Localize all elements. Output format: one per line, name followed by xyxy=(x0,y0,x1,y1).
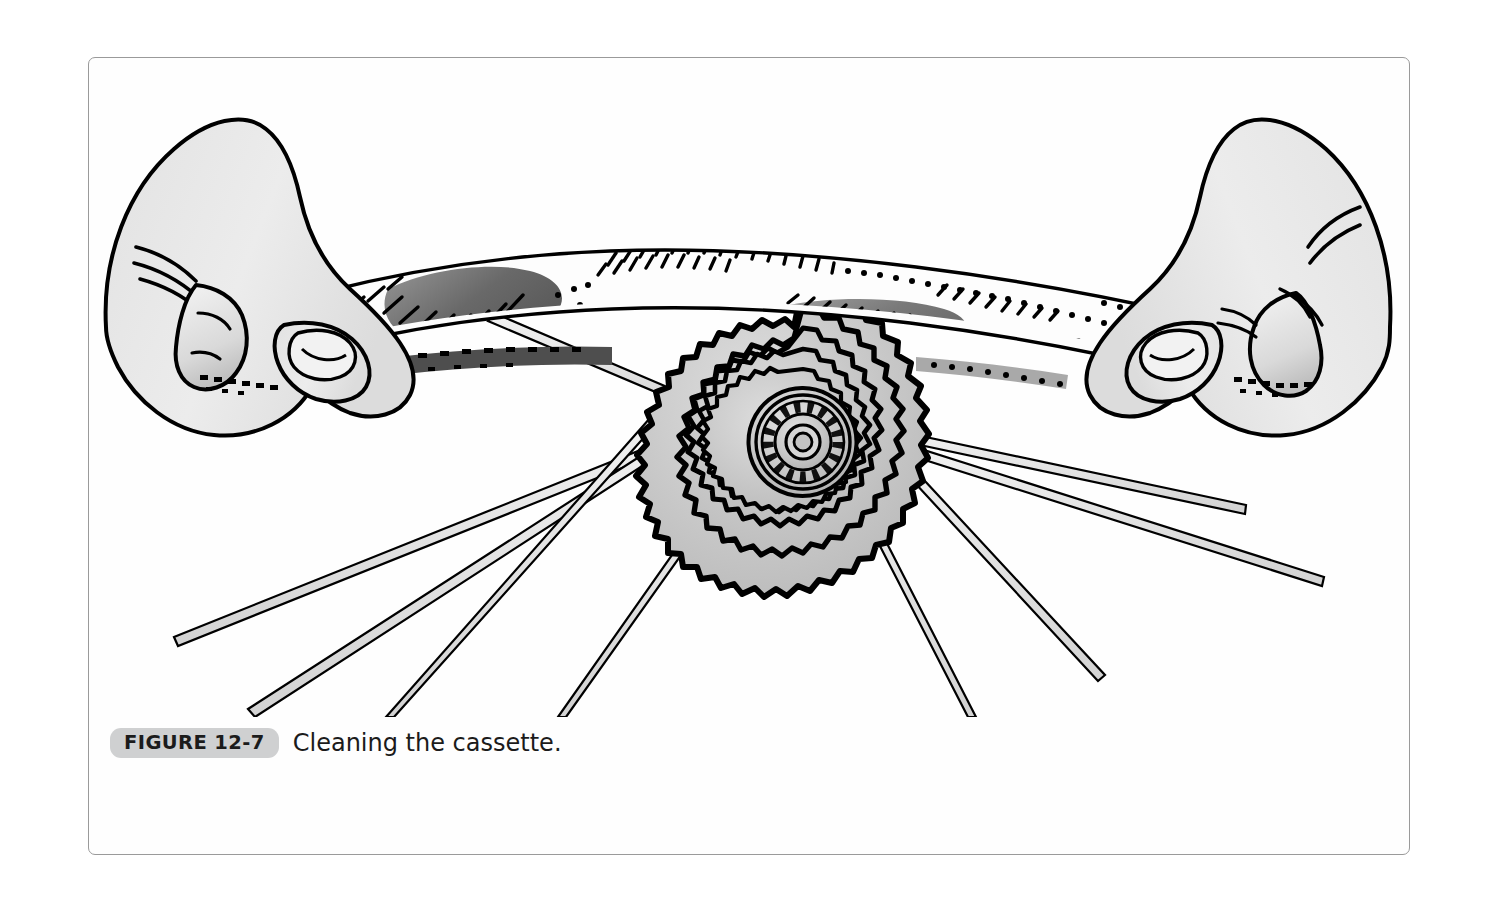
axle-center xyxy=(794,433,812,451)
spoke xyxy=(248,419,704,717)
right-hand xyxy=(1086,119,1390,435)
grime-band-right xyxy=(916,357,1068,389)
figure-illustration xyxy=(88,57,1410,717)
figure-caption: FIGURE 12-7 Cleaning the cassette. xyxy=(110,728,562,758)
page-canvas: FIGURE 12-7 Cleaning the cassette. xyxy=(0,0,1486,903)
spoke xyxy=(906,445,1324,586)
figure-caption-text: Cleaning the cassette. xyxy=(293,730,562,756)
spoke xyxy=(386,409,665,717)
figure-number-badge: FIGURE 12-7 xyxy=(110,728,279,758)
left-hand xyxy=(106,119,414,435)
